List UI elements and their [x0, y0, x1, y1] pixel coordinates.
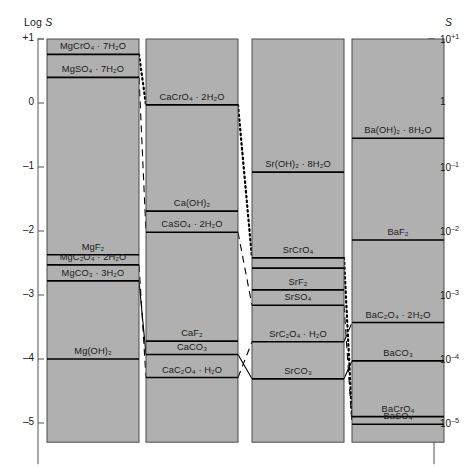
connector-carbonate	[238, 355, 252, 379]
column-Sr	[252, 39, 344, 442]
plot-canvas	[0, 0, 468, 467]
connector-chromate	[139, 54, 146, 105]
connector-carbonate	[139, 281, 146, 355]
left-tick-label: –4	[2, 352, 34, 363]
right-tick-label: 10–3	[440, 288, 459, 301]
right-tick-label: 10–5	[440, 416, 459, 429]
right-tick-label: 10+1	[440, 32, 459, 45]
left-tick-label: –2	[2, 224, 34, 235]
left-tick-label: –1	[2, 160, 34, 171]
left-tick-label: 0	[2, 96, 34, 107]
right-tick-label: 1	[440, 96, 446, 107]
left-tick-label: –5	[2, 416, 34, 427]
left-tick-label: +1	[2, 32, 34, 43]
connector-chromate	[238, 105, 252, 258]
right-tick-label: 10–4	[440, 352, 459, 365]
right-tick-label: 10–1	[440, 160, 459, 173]
right-tick-label: 10–2	[440, 224, 459, 237]
connector-chromate	[344, 258, 352, 417]
connector-oxalate	[238, 342, 252, 378]
connector-carbonate	[344, 361, 352, 379]
column-Mg	[47, 39, 139, 442]
solubility-chart-figure: Log S S +10–1–2–3–4–5 10+1110–110–210–31…	[0, 0, 468, 467]
connector-sulfate	[139, 77, 146, 232]
left-tick-label: –3	[2, 288, 34, 299]
column-Ca	[146, 39, 238, 442]
